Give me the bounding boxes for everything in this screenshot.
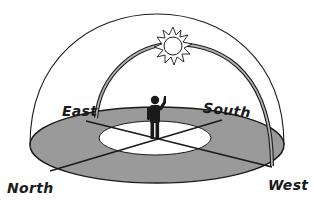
label-east: East <box>62 104 97 118</box>
sun-icon <box>154 27 192 65</box>
sun-path-diagram: East South North West <box>0 0 314 204</box>
diagram-canvas <box>0 0 314 204</box>
label-north: North <box>7 181 53 195</box>
label-west: West <box>268 178 308 192</box>
